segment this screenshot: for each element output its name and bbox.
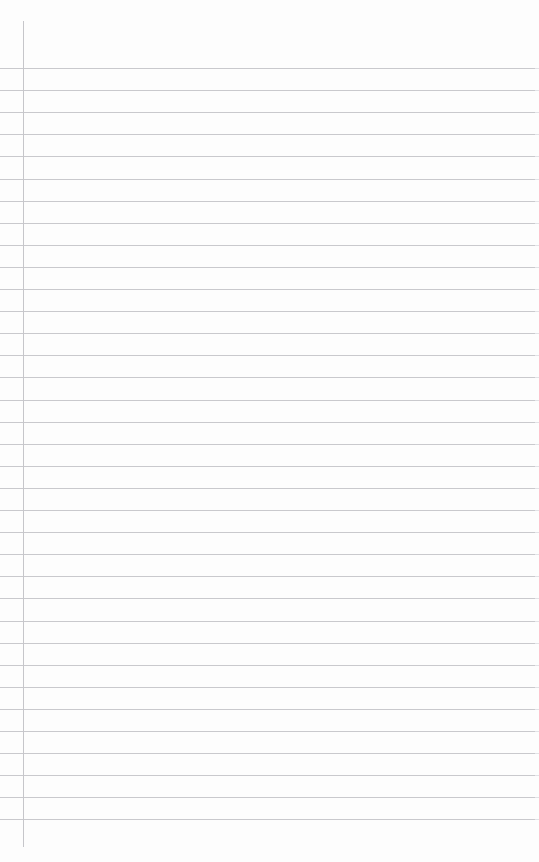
writing-line[interactable] bbox=[27, 735, 532, 753]
writing-area[interactable] bbox=[0, 0, 539, 862]
writing-line[interactable] bbox=[27, 779, 532, 797]
writing-line[interactable] bbox=[27, 381, 532, 399]
writing-line[interactable] bbox=[27, 404, 532, 422]
writing-line[interactable] bbox=[27, 160, 532, 178]
writing-line[interactable] bbox=[27, 558, 532, 576]
writing-line[interactable] bbox=[27, 249, 532, 267]
writing-line[interactable] bbox=[27, 625, 532, 643]
writing-line[interactable] bbox=[27, 669, 532, 687]
writing-line[interactable] bbox=[27, 205, 532, 223]
writing-line[interactable] bbox=[27, 602, 532, 620]
writing-line[interactable] bbox=[27, 94, 532, 112]
writing-line[interactable] bbox=[27, 536, 532, 554]
writing-line[interactable] bbox=[27, 514, 532, 532]
writing-line[interactable] bbox=[27, 116, 532, 134]
writing-line[interactable] bbox=[27, 227, 532, 245]
writing-line[interactable] bbox=[27, 757, 532, 775]
writing-line[interactable] bbox=[27, 647, 532, 665]
writing-line[interactable] bbox=[27, 691, 532, 709]
writing-line[interactable] bbox=[27, 492, 532, 510]
writing-line[interactable] bbox=[27, 713, 532, 731]
notebook-page bbox=[0, 0, 539, 862]
writing-line[interactable] bbox=[27, 580, 532, 598]
writing-line[interactable] bbox=[27, 337, 532, 355]
writing-line[interactable] bbox=[27, 801, 532, 819]
writing-line[interactable] bbox=[27, 470, 532, 488]
writing-line[interactable] bbox=[27, 359, 532, 377]
writing-line[interactable] bbox=[27, 50, 532, 68]
writing-line[interactable] bbox=[27, 426, 532, 444]
writing-line[interactable] bbox=[27, 448, 532, 466]
writing-line[interactable] bbox=[27, 183, 532, 201]
writing-line[interactable] bbox=[27, 72, 532, 90]
writing-line[interactable] bbox=[27, 138, 532, 156]
page-content-text bbox=[0, 0, 1, 1]
writing-line[interactable] bbox=[27, 315, 532, 333]
writing-line[interactable] bbox=[27, 271, 532, 289]
writing-line[interactable] bbox=[27, 293, 532, 311]
